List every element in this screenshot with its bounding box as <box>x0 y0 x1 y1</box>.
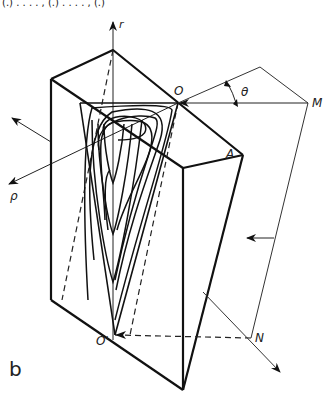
origin-label: O <box>174 84 183 98</box>
rho-axis-label: ρ <box>10 189 18 203</box>
r-axis-label: r <box>119 18 125 31</box>
point-n-label: N <box>255 331 264 345</box>
point-a-label: A <box>225 147 234 161</box>
panel-label: b <box>9 357 22 381</box>
point-m-label: M <box>312 96 323 110</box>
theta-angle-arc <box>228 84 236 103</box>
normal-arrow <box>12 118 51 142</box>
wedge-diagram: (.) . . . . , (.) . . . . , (.) r ρ <box>0 0 331 398</box>
incident-outline <box>178 67 308 372</box>
theta-label: θ <box>241 85 249 99</box>
top-caption-fragment: (.) . . . . , (.) . . . . , (.) <box>2 0 105 8</box>
origin-prime-label: O' <box>96 334 109 348</box>
projection-arrowhead <box>115 331 126 339</box>
